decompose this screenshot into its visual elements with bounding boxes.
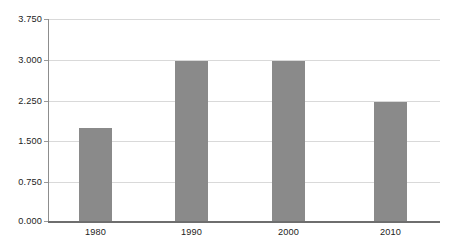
x-axis-label-2000: 2000 [257,228,320,237]
bar-chart: 3.750 3.000 2.250 1.500 0.750 0.000 1980… [0,0,453,250]
x-axis-label-1980: 1980 [64,228,127,237]
y-axis-label-0.750: 0.750 [0,178,42,187]
bar-2010[interactable] [374,102,407,222]
y-axis-label-2.250: 2.250 [0,97,42,106]
y-axis-label-3.000: 3.000 [0,56,42,65]
y-axis-label-3.750: 3.750 [0,15,42,24]
y-axis-label-0.000: 0.000 [0,217,42,226]
bars-layer [48,19,440,222]
y-axis-label-1.500: 1.500 [0,137,42,146]
x-axis-line [48,221,440,223]
bar-1990[interactable] [175,61,208,222]
x-axis-label-2010: 2010 [359,228,422,237]
x-axis-label-1990: 1990 [160,228,223,237]
bar-1980[interactable] [79,128,112,222]
bar-2000[interactable] [272,61,305,222]
